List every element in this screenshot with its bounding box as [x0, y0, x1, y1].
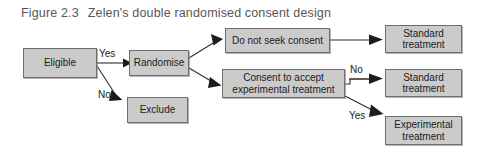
figure-container: Figure 2.3Zelen's double randomised cons… [0, 0, 477, 156]
node-consent-to-accept-line2: experimental treatment [232, 84, 334, 96]
edge-label-yes-eligible: Yes [99, 48, 115, 59]
node-experimental-treatment-line2: treatment [394, 131, 452, 143]
node-randomise-label: Randomise [134, 57, 185, 69]
node-consent-to-accept[interactable]: Consent to accept experimental treatment [222, 69, 345, 98]
node-standard-treatment-2-line1: Standard [402, 72, 444, 84]
node-standard-treatment-1[interactable]: Standard treatment [385, 25, 462, 53]
node-eligible[interactable]: Eligible [23, 48, 97, 78]
node-eligible-label: Eligible [44, 57, 76, 69]
node-experimental-treatment[interactable]: Experimental treatment [385, 116, 462, 145]
edge-label-no-consent: No [350, 64, 363, 75]
arrowhead-exclude [109, 90, 123, 101]
node-standard-treatment-1-lines: Standard treatment [402, 28, 444, 51]
node-standard-treatment-2-lines: Standard treatment [402, 72, 444, 95]
arrowhead-standard-1 [369, 35, 383, 46]
node-do-not-seek-consent-label: Do not seek consent [232, 35, 323, 47]
node-standard-treatment-1-line1: Standard [402, 28, 444, 40]
node-standard-treatment-2[interactable]: Standard treatment [385, 69, 462, 97]
arrowhead-standard-2 [369, 74, 383, 85]
node-randomise[interactable]: Randomise [129, 50, 189, 76]
edge-label-yes-consent: Yes [349, 110, 365, 121]
node-experimental-treatment-line1: Experimental [394, 119, 452, 131]
arrowhead-experimental [369, 105, 384, 118]
node-do-not-seek-consent[interactable]: Do not seek consent [225, 28, 330, 53]
arrowhead-consent-accept [208, 77, 222, 88]
node-exclude-label: Exclude [140, 104, 176, 116]
edge-label-no-eligible: No [98, 89, 111, 100]
node-consent-to-accept-lines: Consent to accept experimental treatment [232, 72, 334, 95]
node-standard-treatment-1-line2: treatment [402, 39, 444, 51]
node-experimental-treatment-lines: Experimental treatment [394, 119, 452, 142]
node-consent-to-accept-line1: Consent to accept [232, 72, 334, 84]
node-exclude[interactable]: Exclude [127, 97, 188, 123]
node-standard-treatment-2-line2: treatment [402, 83, 444, 95]
